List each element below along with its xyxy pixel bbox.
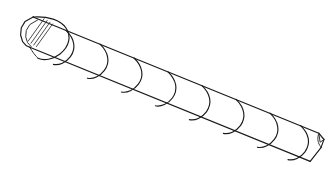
- drawing-canvas: Spiral wound cylindrical rod Black and w…: [0, 0, 336, 180]
- spiral-rod-illustration: [0, 0, 336, 180]
